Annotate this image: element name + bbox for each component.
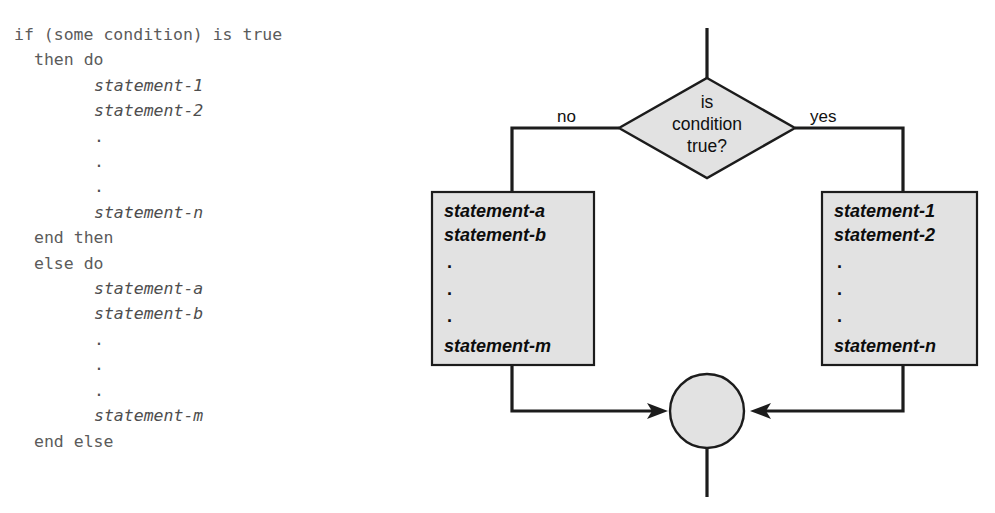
true-merge-edge [758, 365, 903, 411]
true-box-dot-2: . [837, 279, 842, 299]
code-line: . [14, 149, 404, 174]
code-line: statement-m [14, 403, 404, 428]
no-branch-edge [512, 128, 619, 192]
false-box-line-2: statement-b [444, 225, 546, 245]
pseudocode-listing: if (some condition) is true then do stat… [14, 22, 404, 492]
code-line: . [14, 174, 404, 199]
code-line: . [14, 327, 404, 352]
code-line: statement-a [14, 276, 404, 301]
code-line: end else [14, 429, 404, 454]
code-line: . [14, 352, 404, 377]
no-branch-label: no [557, 107, 576, 126]
yes-branch-edge [795, 128, 903, 192]
false-merge-edge [512, 365, 660, 411]
code-line: . [14, 124, 404, 149]
code-line: end then [14, 225, 404, 250]
code-line: else do [14, 251, 404, 276]
code-line: if (some condition) is true [14, 22, 404, 47]
true-box-line-2: statement-2 [834, 225, 935, 245]
flowchart-diagram: is condition true? no yes statement-a st… [404, 0, 995, 513]
true-box-line-1: statement-1 [834, 201, 935, 221]
code-line: statement-n [14, 200, 404, 225]
decision-label-line-3: true? [687, 136, 727, 156]
false-box-line-1: statement-a [444, 201, 545, 221]
code-line: statement-1 [14, 73, 404, 98]
code-line: statement-2 [14, 98, 404, 123]
join-node-circle [670, 374, 744, 448]
code-line: statement-b [14, 301, 404, 326]
false-box-dot-2: . [447, 279, 452, 299]
decision-label-line-1: is [701, 92, 714, 112]
true-box-dot-3: . [837, 306, 842, 326]
false-box-line-last: statement-m [444, 336, 551, 356]
true-box-dot-1: . [837, 252, 842, 272]
yes-branch-label: yes [810, 107, 836, 126]
true-box-line-last: statement-n [834, 336, 936, 356]
false-box-dot-1: . [447, 252, 452, 272]
code-line: then do [14, 47, 404, 72]
false-box-dot-3: . [447, 306, 452, 326]
code-line: . [14, 378, 404, 403]
decision-label-line-2: condition [672, 114, 742, 134]
